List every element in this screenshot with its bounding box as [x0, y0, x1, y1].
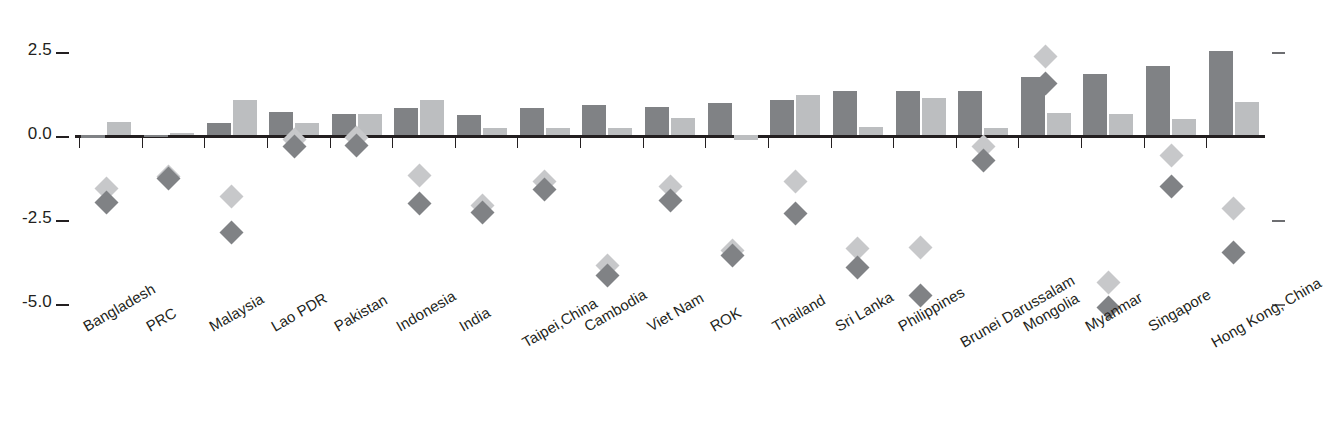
bar	[233, 100, 257, 135]
data-point-marker	[407, 163, 431, 187]
bar	[734, 135, 758, 140]
plot-area	[75, 30, 1265, 310]
data-point-marker	[1222, 240, 1246, 264]
x-axis-tick-mark	[392, 138, 393, 148]
x-axis-tick-mark	[267, 138, 268, 148]
x-axis-tick-mark	[517, 138, 518, 148]
bar	[984, 128, 1008, 135]
y-axis-tick-label: -2.5	[0, 208, 52, 228]
bar	[170, 133, 194, 135]
y-axis-tick-mark	[56, 52, 69, 54]
x-axis-tick-mark	[330, 138, 331, 148]
bar	[770, 100, 794, 135]
bar	[394, 108, 418, 135]
x-axis-tick-mark	[580, 138, 581, 148]
data-point-marker	[94, 190, 118, 214]
bar	[520, 108, 544, 135]
bar	[833, 91, 857, 135]
bar	[1146, 66, 1170, 135]
bar	[1172, 119, 1196, 135]
bar	[546, 128, 570, 135]
data-point-marker	[220, 185, 244, 209]
x-axis-tick-mark	[1144, 138, 1145, 148]
data-point-marker	[1096, 270, 1120, 294]
y-axis-tick-label: 0.0	[0, 124, 52, 144]
bar	[1083, 74, 1107, 135]
bar	[708, 103, 732, 135]
bar	[1109, 114, 1133, 135]
y-axis-tick-mark	[56, 220, 69, 222]
data-point-marker	[1159, 175, 1183, 199]
x-axis-tick-mark	[643, 138, 644, 148]
data-point-marker	[1222, 197, 1246, 221]
y-axis-tick-mark	[56, 304, 69, 306]
bar	[483, 128, 507, 135]
bar	[645, 107, 669, 135]
bar	[1235, 102, 1259, 136]
y-axis-tick-mark-right	[1272, 220, 1285, 222]
bar	[796, 95, 820, 135]
bar	[420, 100, 444, 135]
data-point-marker	[157, 167, 181, 191]
bar	[81, 135, 105, 138]
y-axis-tick-mark-right	[1272, 52, 1285, 54]
zero-baseline	[75, 135, 1265, 138]
bar	[608, 128, 632, 135]
data-point-marker	[971, 148, 995, 172]
data-point-marker	[846, 255, 870, 279]
bar	[896, 91, 920, 135]
data-point-marker	[908, 235, 932, 259]
y-axis-tick-label: 2.5	[0, 40, 52, 60]
x-axis-tick-mark	[204, 138, 205, 148]
x-axis-tick-mark	[705, 138, 706, 148]
x-axis-tick-mark	[79, 138, 80, 148]
bar	[1209, 51, 1233, 135]
bar	[457, 115, 481, 135]
data-point-marker	[783, 202, 807, 226]
x-axis-tick-mark	[1018, 138, 1019, 148]
data-point-marker	[220, 220, 244, 244]
x-axis-tick-mark	[1081, 138, 1082, 148]
bar	[671, 118, 695, 135]
bar	[107, 122, 131, 135]
data-point-marker	[407, 192, 431, 216]
x-axis-tick-mark	[893, 138, 894, 148]
x-axis-tick-mark	[956, 138, 957, 148]
data-point-marker	[1034, 44, 1058, 68]
data-point-marker	[1159, 143, 1183, 167]
bar	[958, 91, 982, 135]
x-axis-tick-mark	[1206, 138, 1207, 148]
bar	[582, 105, 606, 135]
x-axis-tick-mark	[831, 138, 832, 148]
x-axis-tick-mark	[455, 138, 456, 148]
bar	[922, 98, 946, 135]
x-axis-tick-mark	[142, 138, 143, 148]
bar	[1047, 113, 1071, 135]
bar	[144, 135, 168, 137]
x-axis-tick-mark	[768, 138, 769, 148]
bar	[859, 127, 883, 135]
y-axis-tick-label: -5.0	[0, 292, 52, 312]
y-axis-tick-mark	[56, 136, 69, 138]
data-point-marker	[783, 170, 807, 194]
bar	[207, 123, 231, 135]
data-point-marker	[658, 188, 682, 212]
